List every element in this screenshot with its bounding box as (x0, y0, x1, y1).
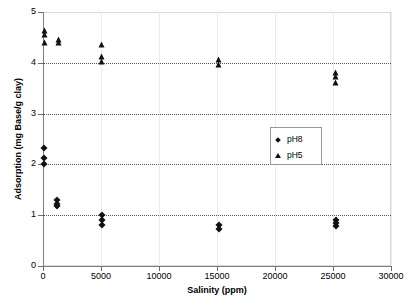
triangle-marker-icon (41, 40, 47, 46)
chart-legend: pH8 pH5 (270, 127, 322, 165)
legend-item-ph5[interactable]: pH5 (271, 148, 323, 162)
triangle-marker-icon (333, 74, 339, 80)
x-axis-tick-label: 25000 (303, 272, 363, 281)
x-axis-tick-label: 5000 (71, 272, 131, 281)
scatter-chart: 012345 050001000015000200002500030000 Ad… (0, 0, 413, 301)
horizontal-gridline (43, 164, 391, 165)
x-axis-title: Salinity (ppm) (43, 285, 391, 295)
horizontal-gridline (43, 114, 391, 115)
x-axis-tick-label: 20000 (245, 272, 305, 281)
x-axis-tick-label: 0 (13, 272, 73, 281)
legend-item-label: pH8 (287, 132, 303, 146)
triangle-marker-icon (56, 40, 62, 46)
triangle-marker-icon (216, 61, 222, 67)
legend-item-label: pH5 (287, 148, 303, 162)
y-axis-title: Adsorption (mg Base/g clay) (12, 12, 25, 266)
x-axis-tick-label: 15000 (187, 272, 247, 281)
diamond-marker-icon (271, 132, 287, 146)
triangle-marker-icon (41, 32, 47, 38)
vertical-gridline (391, 12, 392, 266)
x-axis-tick-label: 30000 (361, 272, 413, 281)
horizontal-gridline (43, 215, 391, 216)
triangle-marker-icon (99, 58, 105, 64)
x-axis-tick-label: 10000 (129, 272, 189, 281)
legend-item-ph8[interactable]: pH8 (271, 132, 323, 146)
triangle-marker-icon (271, 148, 287, 162)
triangle-marker-icon (333, 80, 339, 86)
vertical-gridline (159, 12, 160, 266)
triangle-marker-icon (99, 42, 105, 48)
